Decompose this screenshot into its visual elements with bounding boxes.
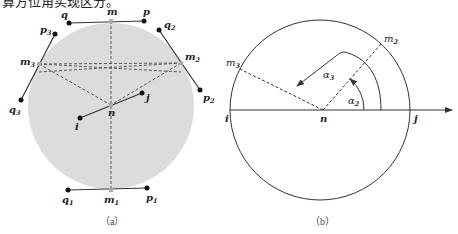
label-m: m — [107, 6, 118, 17]
figure-canvas: 算方位角实现区分。 — [0, 0, 458, 234]
label-m2: m2 — [185, 51, 201, 64]
header-text: 算方位角实现区分。 — [2, 0, 119, 9]
dashed-radii — [240, 44, 381, 110]
label-p1: p1 — [146, 192, 158, 205]
label-n: n — [108, 107, 115, 118]
label-i: i — [75, 121, 79, 132]
label-q2: q2 — [164, 19, 176, 32]
label-p2: p2 — [203, 92, 215, 105]
label-q: q — [61, 9, 68, 20]
label-j-b: j — [412, 113, 418, 124]
figure-a: m q p p3 m3 q3 q2 m2 p2 n j i q1 m1 p1 （… — [9, 6, 215, 227]
label-q1: q1 — [62, 194, 74, 207]
alpha3-arc — [297, 52, 381, 110]
label-m1: m1 — [104, 194, 119, 207]
label-m3: m3 — [20, 56, 36, 69]
caption-b: （b） — [310, 216, 335, 227]
label-n-b: n — [320, 113, 327, 124]
label-q3: q3 — [9, 104, 21, 117]
figure-b: m2 m3 n i j α2 α3 （b） — [225, 20, 452, 227]
label-p3: p3 — [40, 24, 52, 37]
label-m3-b: m3 — [226, 57, 240, 70]
label-p: p — [143, 6, 150, 17]
caption-a: （a） — [100, 216, 124, 227]
label-alpha2: α2 — [348, 95, 360, 108]
label-i-b: i — [225, 113, 229, 124]
label-m2-b: m2 — [384, 33, 398, 46]
label-alpha3: α3 — [323, 69, 335, 82]
